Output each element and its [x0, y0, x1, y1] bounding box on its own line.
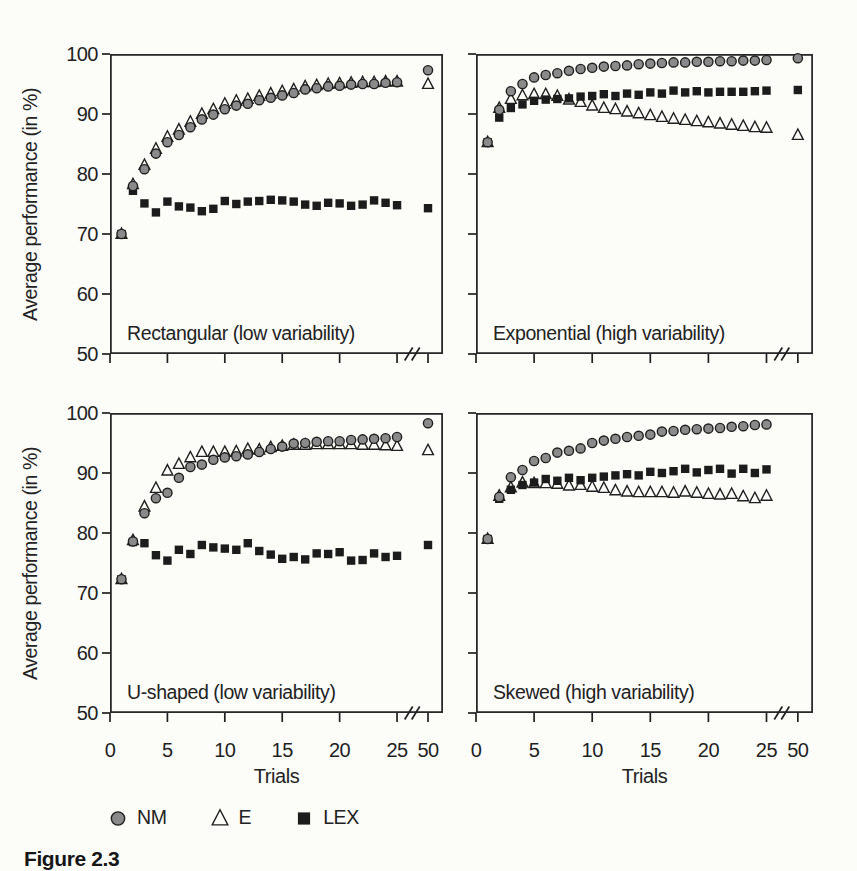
panel-top-right: Exponential (high variability) [476, 54, 813, 354]
e-triangle-marker [622, 106, 633, 116]
lex-square-marker [600, 90, 608, 98]
x-tick-label: 5 [517, 740, 551, 761]
e-triangle-marker [703, 488, 714, 498]
legend-item-nm: NM [107, 806, 167, 829]
axis-break-slash [412, 707, 420, 720]
nm-circle-marker [692, 425, 701, 434]
lex-square-marker [611, 92, 619, 100]
lex-square-marker [140, 539, 148, 547]
axis-break-slash [774, 348, 782, 361]
nm-circle-marker [232, 452, 241, 461]
lex-square-marker [198, 541, 206, 549]
nm-circle-marker [634, 60, 643, 69]
nm-circle-marker [392, 432, 401, 441]
nm-circle-marker [553, 69, 562, 78]
lex-square-marker [693, 87, 701, 95]
lex-square-marker [290, 197, 298, 205]
nm-circle-marker [255, 447, 264, 456]
nm-circle-marker [255, 96, 264, 105]
x-tick-label: 20 [323, 740, 357, 761]
e-triangle-marker [668, 487, 679, 497]
nm-circle-marker [529, 456, 538, 465]
plot-border [477, 414, 812, 712]
lex-square-marker [704, 88, 712, 96]
nm-circle-marker [266, 93, 275, 102]
lex-square-marker [646, 468, 654, 476]
y-tick-label: 80 [58, 164, 98, 184]
nm-circle-marker [140, 509, 149, 518]
figure-caption: Figure 2.3 [24, 847, 119, 871]
e-triangle-marker [715, 489, 726, 499]
panel-plot-bottom-right [476, 413, 813, 713]
y-tick-label: 100 [58, 403, 98, 423]
lex-square-marker [507, 104, 515, 112]
legend: NMELEX [107, 806, 359, 829]
e-triangle-marker [645, 486, 656, 496]
lex-square-marker [232, 546, 240, 554]
nm-circle-marker [611, 61, 620, 70]
nm-circle-marker [151, 494, 160, 503]
lex-square-marker [232, 200, 240, 208]
lex-square-marker [530, 97, 538, 105]
e-triangle-marker [749, 121, 760, 131]
nm-circle-marker [197, 115, 206, 124]
nm-circle-marker [186, 123, 195, 132]
e-triangle-marker [517, 89, 528, 99]
nm-circle-marker [646, 59, 655, 68]
nm-circle-marker [347, 435, 356, 444]
y-axis-label-top: Average performance (in %) [19, 85, 42, 325]
nm-circle-marker [220, 105, 229, 114]
nm-circle-marker [634, 431, 643, 440]
nm-circle-marker [209, 110, 218, 119]
panel-title: Exponential (high variability) [493, 322, 725, 345]
lex-square-marker [152, 208, 160, 216]
legend-item-e: E [209, 806, 252, 829]
nm-circle-marker [564, 66, 573, 75]
nm-circle-marker [495, 105, 504, 114]
nm-circle-marker [324, 82, 333, 91]
lex-square-marker [542, 95, 550, 103]
x-axis-label-right: Trials [476, 765, 813, 788]
e-triangle-marker [212, 809, 228, 824]
e-triangle-marker [610, 484, 621, 494]
lex-square-marker [681, 465, 689, 473]
panel-title: Skewed (high variability) [493, 681, 694, 704]
nm-circle-marker [495, 492, 504, 501]
lex-square-marker [727, 88, 735, 96]
panel-plot-top-left [110, 54, 443, 354]
e-triangle-marker [173, 458, 184, 468]
lex-square-marker [716, 88, 724, 96]
lex-square-marker [267, 196, 275, 204]
y-tick-label: 70 [58, 583, 98, 603]
y-tick-label: 90 [58, 463, 98, 483]
nm-circle-marker [151, 149, 160, 158]
lex-square-marker [588, 474, 596, 482]
lex-square-marker [565, 474, 573, 482]
lex-square-marker [255, 197, 263, 205]
lex-square-marker [393, 201, 401, 209]
lex-square-marker [221, 544, 229, 552]
lex-square-marker [424, 204, 432, 212]
legend-label: LEX [323, 806, 359, 829]
lex-square-marker [658, 89, 666, 97]
nm-circle-marker [220, 453, 229, 462]
lex-square-marker [186, 203, 194, 211]
lex-square-marker [576, 476, 584, 484]
nm-circle-marker [381, 434, 390, 443]
lex-square-marker [716, 465, 724, 473]
lex-square-marker [565, 94, 573, 102]
lex-square-marker [301, 200, 309, 208]
lex-square-marker [518, 100, 526, 108]
nm-circle-marker [174, 473, 183, 482]
x-tick-label: 25 [380, 740, 414, 761]
lex-square-marker [588, 92, 596, 100]
lex-square-marker [324, 199, 332, 207]
lex-square-marker [209, 205, 217, 213]
nm-circle-marker [588, 63, 597, 72]
lex-square-marker [267, 550, 275, 558]
nm-circle-marker [289, 439, 298, 448]
nm-circle-marker [128, 537, 137, 546]
e-triangle-marker [792, 129, 803, 139]
nm-circle-marker [529, 73, 538, 82]
legend-circle-icon [107, 807, 129, 829]
